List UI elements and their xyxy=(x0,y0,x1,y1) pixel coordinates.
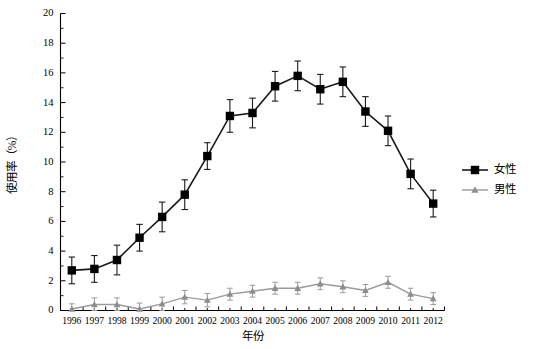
data-point xyxy=(385,279,392,285)
data-point xyxy=(248,109,256,117)
legend-label: 男性 xyxy=(494,182,516,195)
series-layer xyxy=(68,61,438,312)
data-point xyxy=(361,107,369,115)
data-point xyxy=(429,199,437,207)
y-tick-label: 18 xyxy=(43,37,54,48)
y-tick-label: 10 xyxy=(43,156,54,167)
data-point xyxy=(339,78,347,86)
data-point xyxy=(113,256,121,264)
y-tick-label: 14 xyxy=(43,97,54,108)
x-tick-label: 2006 xyxy=(288,315,307,326)
x-tick-label: 2007 xyxy=(311,315,330,326)
data-point xyxy=(135,234,143,242)
data-point xyxy=(90,265,98,273)
x-tick-label: 2002 xyxy=(198,315,217,326)
chart-legend: 女性男性 xyxy=(462,162,516,195)
x-axis: 1996199719981999200020012002200320042005… xyxy=(61,307,445,326)
y-tick-label: 20 xyxy=(43,7,54,18)
y-axis-title: 使用率（%） xyxy=(5,130,18,195)
data-point xyxy=(181,190,189,198)
line-chart: 02468101214161820 1996199719981999200020… xyxy=(0,0,535,349)
x-tick-label: 2000 xyxy=(153,315,172,326)
data-point xyxy=(226,112,234,120)
y-tick-label: 8 xyxy=(48,186,53,197)
x-tick-label: 2004 xyxy=(243,315,262,326)
x-tick-label: 1997 xyxy=(85,315,104,326)
x-axis-title: 年份 xyxy=(242,329,265,342)
x-tick-label: 2011 xyxy=(401,315,420,326)
x-tick-label: 2003 xyxy=(220,315,239,326)
x-tick-label: 1999 xyxy=(130,315,149,326)
data-point xyxy=(158,213,166,221)
series-male xyxy=(68,276,436,311)
x-tick-label: 1998 xyxy=(107,315,126,326)
data-point xyxy=(203,152,211,160)
y-axis: 02468101214161820 xyxy=(43,7,66,315)
data-point xyxy=(293,72,301,80)
data-point xyxy=(406,170,414,178)
data-point xyxy=(407,291,414,297)
data-point xyxy=(68,266,76,274)
chart-container: 02468101214161820 1996199719981999200020… xyxy=(0,0,535,349)
y-tick-label: 4 xyxy=(48,245,54,256)
legend-marker-square xyxy=(471,166,479,174)
data-point xyxy=(271,82,279,90)
x-tick-label: 2001 xyxy=(175,315,194,326)
data-point xyxy=(316,85,324,93)
legend-item-female[interactable]: 女性 xyxy=(462,162,516,175)
x-tick-label: 2009 xyxy=(356,315,375,326)
legend-item-male[interactable]: 男性 xyxy=(462,182,516,195)
y-tick-label: 16 xyxy=(43,67,54,78)
y-tick-label: 0 xyxy=(48,304,53,315)
legend-label: 女性 xyxy=(494,162,516,175)
x-tick-label: 2012 xyxy=(424,315,443,326)
y-tick-label: 12 xyxy=(43,126,54,137)
series-female xyxy=(68,61,438,284)
y-tick-label: 2 xyxy=(48,275,53,286)
x-tick-label: 2005 xyxy=(265,315,284,326)
x-tick-label: 2010 xyxy=(378,315,397,326)
x-tick-label: 1996 xyxy=(62,315,81,326)
y-tick-label: 6 xyxy=(48,215,53,226)
data-point xyxy=(384,127,392,135)
x-tick-label: 2008 xyxy=(333,315,352,326)
